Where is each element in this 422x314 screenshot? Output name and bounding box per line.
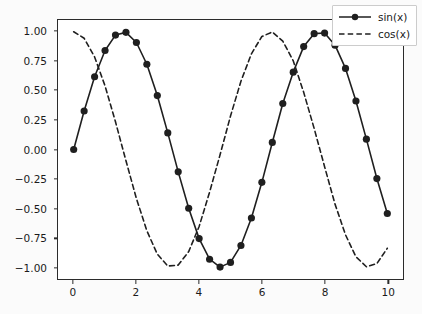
y-tick-label: −0.75 (15, 232, 47, 244)
data-point-marker (373, 175, 380, 182)
matplotlib-figure: 1.000.750.500.250.00−0.25−0.50−0.75−1.00… (0, 0, 422, 314)
y-tick-label: 0.75 (24, 55, 47, 67)
data-point-marker (101, 47, 108, 54)
series-line-sin(x) (74, 32, 388, 267)
data-point-marker (112, 32, 119, 39)
y-axis-tick-labels: 1.000.750.500.250.00−0.25−0.50−0.75−1.00 (0, 19, 47, 280)
legend-label-sin: sin(x) (378, 11, 407, 23)
data-point-marker (342, 65, 349, 72)
data-point-marker (70, 146, 77, 153)
data-point-marker (154, 92, 161, 99)
data-point-marker (185, 205, 192, 212)
data-point-marker (164, 129, 171, 136)
data-point-marker (248, 214, 255, 221)
legend-entry-sin[interactable]: sin(x) (338, 10, 410, 24)
data-point-marker (133, 39, 140, 46)
x-tick-mark (135, 280, 136, 284)
data-point-marker (196, 235, 203, 242)
x-tick-label: 2 (133, 286, 140, 298)
data-point-marker (321, 29, 328, 36)
y-tick-label: 0.50 (24, 84, 47, 96)
y-tick-label: −1.00 (15, 262, 47, 274)
x-axis-tick-labels: 0246810 (57, 286, 404, 302)
data-point-marker (175, 168, 182, 175)
x-tick-mark (72, 280, 73, 284)
legend-line-sample-sin (338, 11, 372, 23)
data-point-marker (206, 256, 213, 263)
x-tick-mark (388, 280, 389, 284)
plot-area (57, 19, 404, 280)
data-point-marker (258, 179, 265, 186)
legend-line-sample-cos (338, 28, 372, 40)
data-point-marker (352, 97, 359, 104)
data-point-marker (227, 259, 234, 266)
x-tick-label: 10 (382, 286, 395, 298)
x-tick-mark (324, 280, 325, 284)
data-point-marker (91, 73, 98, 80)
y-tick-label: 0.00 (24, 144, 47, 156)
x-tick-label: 6 (259, 286, 266, 298)
data-point-marker (311, 30, 318, 37)
y-tick-label: 1.00 (24, 25, 47, 37)
x-tick-label: 0 (69, 286, 76, 298)
data-point-marker (269, 139, 276, 146)
data-point-marker (237, 242, 244, 249)
y-tick-label: 0.25 (24, 114, 47, 126)
data-point-marker (279, 100, 286, 107)
x-tick-label: 8 (322, 286, 329, 298)
data-point-marker (216, 264, 223, 271)
chart-data-svg (58, 20, 403, 279)
chart-legend[interactable]: sin(x) cos(x) (332, 5, 417, 46)
y-tick-label: −0.50 (15, 203, 47, 215)
legend-entry-cos[interactable]: cos(x) (338, 27, 410, 41)
y-tick-label: −0.25 (15, 173, 47, 185)
legend-label-cos: cos(x) (378, 28, 410, 40)
series-line-cos(x) (74, 32, 388, 267)
data-point-marker (122, 29, 129, 36)
data-point-marker (300, 43, 307, 50)
x-tick-mark (261, 280, 262, 284)
data-point-marker (384, 210, 391, 217)
data-point-marker (363, 136, 370, 143)
data-point-marker (143, 61, 150, 68)
x-tick-label: 4 (196, 286, 203, 298)
x-tick-mark (198, 280, 199, 284)
data-point-marker (81, 107, 88, 114)
